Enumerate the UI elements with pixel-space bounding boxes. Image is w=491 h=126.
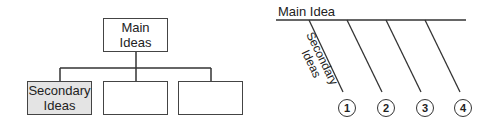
main-ideas-line1: Main <box>120 20 152 35</box>
branch-number-2: 2 <box>377 99 395 117</box>
main-idea-label: Main Idea <box>278 4 335 19</box>
empty-child-box-3 <box>178 81 243 115</box>
main-ideas-box: Main Ideas <box>103 18 168 52</box>
secondary-ideas-line2: Ideas <box>28 98 90 113</box>
main-ideas-line2: Ideas <box>120 35 152 50</box>
empty-child-box-2 <box>103 81 168 115</box>
secondary-ideas-line1: Secondary <box>28 83 90 98</box>
secondary-ideas-box: Secondary Ideas <box>27 81 92 115</box>
branch-number-3: 3 <box>416 99 434 117</box>
branch-number-4: 4 <box>454 99 472 117</box>
branch-number-1: 1 <box>338 99 356 117</box>
